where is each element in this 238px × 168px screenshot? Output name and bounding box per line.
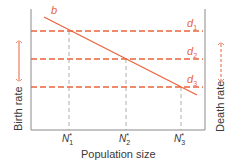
y-right-axis-title: Death rate <box>214 81 226 132</box>
death-curve-label-d3: d3 <box>187 73 197 87</box>
y-left-axis-title: Birth rate <box>12 86 24 131</box>
death-curve-label-d2: d2 <box>187 45 197 59</box>
death-curve-label-d1: d1 <box>187 17 197 31</box>
x-tick-n3: N3* <box>174 132 184 146</box>
x-tick-n2: N2* <box>119 132 129 146</box>
x-axis-title: Population size <box>81 148 156 160</box>
birth-line-b <box>44 17 197 95</box>
birth-curve-label: b <box>51 4 57 16</box>
x-tick-n1: N1* <box>62 132 72 146</box>
